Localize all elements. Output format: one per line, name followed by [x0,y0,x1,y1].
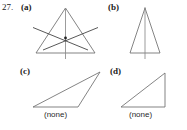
triangle-diagram-a [33,6,98,61]
concurrency-point-a [64,37,67,40]
cevian-a-left [33,28,88,51]
triangle-d-outline [121,73,165,107]
figure-root: 27. (a) (b) (c) (none) (d) (none) [0,0,187,130]
panel-label-c: (c) [20,67,30,76]
panel-caption-c: (none) [44,111,67,119]
cevian-a-right [43,28,98,51]
panel-label-a: (a) [21,3,32,12]
triangle-diagram-b [126,6,164,61]
triangle-diagram-d [118,70,178,110]
panel-caption-d: (none) [129,111,152,119]
triangle-c-outline [33,72,100,107]
triangle-diagram-c [30,70,102,110]
panel-label-b: (b) [108,3,119,12]
problem-number: 27. [2,3,13,12]
